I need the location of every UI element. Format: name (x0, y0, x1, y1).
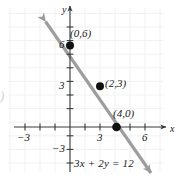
y-tick-label-6: 6 (59, 39, 65, 50)
x-axis-label: x (170, 124, 174, 134)
y-axis-label: y (62, 5, 66, 15)
x-tick-label-neg3: −3 (17, 132, 30, 143)
x-tick-label-6: 6 (142, 132, 148, 143)
y-tick-label-3: 3 (59, 80, 65, 91)
point-label-4-0: (4,0) (113, 108, 134, 119)
graph-figure: y x (0,6) (2,3) (4,0) −3 3 6 6 3 −3 3x +… (0, 0, 182, 180)
y-tick-label-neg3: −3 (52, 143, 65, 154)
coordinate-plane-svg (0, 0, 182, 180)
equation-label: 3x + 2y = 12 (74, 158, 134, 169)
point-2-3 (96, 82, 104, 90)
point-0-6 (66, 42, 74, 50)
page-edge-artifact: ) (0, 88, 9, 104)
x-tick-label-3: 3 (97, 132, 103, 143)
point-4-0 (112, 123, 121, 132)
point-label-0-6: (0,6) (70, 28, 91, 39)
point-label-2-3: (2,3) (105, 78, 126, 89)
